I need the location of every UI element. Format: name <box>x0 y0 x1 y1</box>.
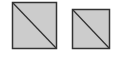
square-large <box>13 3 57 49</box>
diagram-canvas <box>0 0 122 58</box>
square-small <box>73 10 110 49</box>
